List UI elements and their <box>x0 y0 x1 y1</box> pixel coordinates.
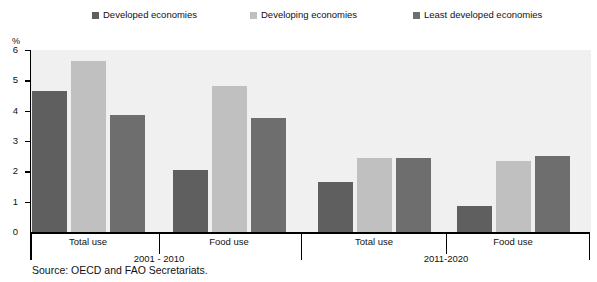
bar <box>110 115 145 232</box>
panel-period-label: 2011-2020 <box>386 253 506 264</box>
y-axis-tick-label: 6 <box>6 44 18 55</box>
y-axis-tick-label: 3 <box>6 135 18 146</box>
group-separator-tick <box>446 232 447 254</box>
bar <box>32 91 67 232</box>
y-axis-tick-mark <box>25 202 30 203</box>
x-axis-group-label: Food use <box>184 236 274 247</box>
bar <box>71 61 106 232</box>
bar <box>496 161 531 232</box>
panel-edge-line <box>589 232 590 260</box>
bar <box>357 158 392 232</box>
y-axis-tick-label: 1 <box>6 196 18 207</box>
group-separator-tick <box>159 232 160 254</box>
x-axis-group-label: Total use <box>43 236 133 247</box>
x-axis-baseline <box>30 232 590 234</box>
bar <box>251 118 286 232</box>
x-axis-group-label: Food use <box>468 236 558 247</box>
bar <box>173 170 208 232</box>
bar <box>457 206 492 232</box>
bar <box>318 182 353 232</box>
panel-period-label: 2001 - 2010 <box>99 253 219 264</box>
bar-chart: 0123456 Total useFood useTotal useFood u… <box>0 0 597 282</box>
source-note: Source: OECD and FAO Secretariats. <box>32 264 208 276</box>
y-axis-tick-label: 0 <box>6 226 18 237</box>
y-axis-line-extension <box>30 232 32 260</box>
x-axis-group-label: Total use <box>329 236 419 247</box>
y-axis-tick-mark <box>25 141 30 142</box>
bar <box>212 86 247 232</box>
y-axis-tick-label: 5 <box>6 74 18 85</box>
y-axis-tick-label: 4 <box>6 105 18 116</box>
y-axis-tick-mark <box>25 171 30 172</box>
y-axis-tick-label: 2 <box>6 165 18 176</box>
bar <box>396 158 431 232</box>
bar <box>535 156 570 232</box>
y-axis-tick-mark <box>25 111 30 112</box>
y-axis-tick-mark <box>25 80 30 81</box>
panel-boundary-line <box>301 232 302 260</box>
y-axis-tick-mark <box>25 50 30 51</box>
